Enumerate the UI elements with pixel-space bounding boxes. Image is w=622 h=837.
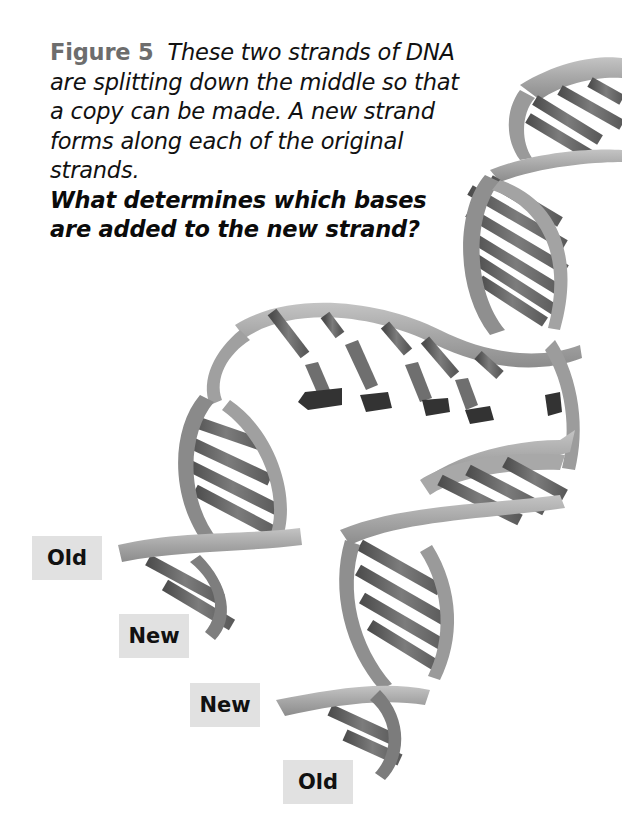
strand-label-old-top: Old: [32, 536, 102, 580]
label-text: New: [199, 693, 250, 717]
caption-question: What determines which bases are added to…: [50, 186, 470, 245]
intact-helix-top: [463, 57, 622, 335]
label-text: Old: [298, 770, 338, 794]
figure-caption: Figure 5These two strands of DNA are spl…: [50, 38, 470, 245]
label-text: New: [128, 624, 179, 648]
strand-label-new-bottom: New: [190, 683, 260, 727]
strand-label-new-top: New: [119, 614, 189, 658]
helix-left: [118, 395, 302, 640]
label-text: Old: [47, 546, 87, 570]
figure-number: Figure 5: [50, 39, 153, 65]
separating-strand-upper: [207, 303, 582, 405]
helix-lower: [276, 454, 565, 780]
strand-label-old-bottom: Old: [283, 760, 353, 804]
